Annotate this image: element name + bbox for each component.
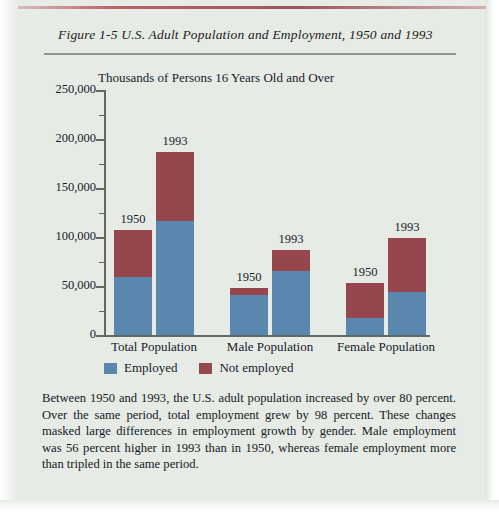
y-tick-label: 250,000 [36, 82, 96, 97]
bar-value-label-1993: 1993 [261, 232, 321, 247]
y-tick-label: 100,000 [36, 229, 96, 244]
bar-segment-employed [230, 295, 268, 335]
figure-caption: Between 1950 and 1993, the U.S. adult po… [42, 390, 456, 473]
bar-segment-employed [114, 277, 152, 335]
legend-swatch-not-employed [199, 363, 212, 374]
bar-value-label-1950: 1950 [103, 212, 163, 227]
chart-legend: Employed Not employed [104, 360, 293, 376]
bar-male-population-1993 [272, 250, 310, 335]
y-axis-major-tick [96, 286, 104, 288]
bar-value-label-1993: 1993 [377, 220, 437, 235]
y-axis-major-tick [96, 139, 104, 141]
bar-segment-not-employed [272, 250, 310, 272]
legend-item-not-employed: Not employed [199, 360, 293, 376]
plot-area: 195019931950199319501993 [106, 90, 430, 335]
bar-segment-employed [388, 292, 426, 335]
bar-segment-not-employed [114, 230, 152, 277]
legend-label-employed: Employed [124, 360, 177, 376]
bar-segment-not-employed [156, 152, 194, 222]
bar-segment-employed [272, 271, 310, 335]
y-tick-label: 200,000 [36, 131, 96, 146]
legend-swatch-employed [104, 363, 117, 374]
bar-female-population-1993 [388, 238, 426, 335]
bar-male-population-1950 [230, 288, 268, 335]
bar-segment-not-employed [388, 238, 426, 292]
category-label-female-population: Female Population [306, 339, 466, 355]
y-axis-major-tick [96, 90, 104, 92]
bar-segment-employed [156, 221, 194, 335]
chart-subtitle: Thousands of Persons 16 Years Old and Ov… [98, 70, 334, 86]
bar-total-population-1993 [156, 152, 194, 335]
y-tick-label: 150,000 [36, 180, 96, 195]
bar-value-label-1950: 1950 [219, 270, 279, 285]
bar-value-label-1950: 1950 [335, 265, 395, 280]
bar-segment-not-employed [230, 288, 268, 295]
bar-female-population-1950 [346, 283, 384, 335]
y-axis-major-tick [96, 188, 104, 190]
bar-segment-not-employed [346, 283, 384, 318]
bar-total-population-1950 [114, 230, 152, 335]
scanned-page: Figure 1-5 U.S. Adult Population and Emp… [0, 0, 499, 512]
legend-label-not-employed: Not employed [219, 360, 293, 376]
legend-item-employed: Employed [104, 360, 177, 376]
bar-segment-employed [346, 318, 384, 335]
y-axis-major-tick [96, 335, 104, 337]
bar-value-label-1993: 1993 [145, 134, 205, 149]
x-axis-line [104, 335, 430, 337]
y-tick-label: 50,000 [36, 278, 96, 293]
y-axis-major-tick [96, 237, 104, 239]
y-axis-tick-labels: 050,000100,000150,000200,000250,000 [34, 90, 96, 336]
